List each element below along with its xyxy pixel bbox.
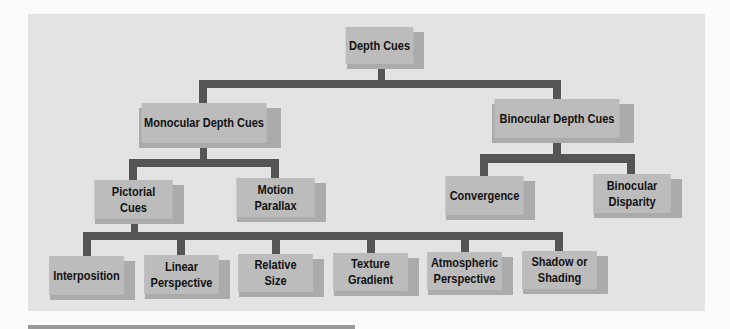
connector-pictorial-bar	[83, 232, 563, 240]
node-label: Binocular Disparity	[593, 174, 670, 213]
node-label: Texture Gradient	[333, 253, 408, 291]
connector-to-atmospheric-perspective	[461, 232, 469, 253]
connector-to-linear-perspective	[177, 232, 185, 256]
connector-binocular-to-disparity	[627, 154, 635, 175]
node-linear-perspective: Linear Perspective	[139, 255, 224, 294]
node-label: Monocular Depth Cues	[142, 103, 267, 143]
connector-binocular-bar	[480, 154, 635, 163]
node-label: Atmospheric Perspective	[427, 252, 502, 290]
connector-binocular-to-convergence	[480, 154, 488, 177]
node-label: Binocular Depth Cues	[495, 99, 620, 138]
node-interposition: Interposition	[44, 256, 129, 295]
footer-bar	[28, 325, 355, 329]
connector-to-relative-size	[272, 232, 280, 255]
connector-root-to-monocular	[199, 80, 207, 104]
connector-monocular-to-motion	[271, 159, 279, 179]
connector-root-to-binocular	[553, 80, 561, 100]
connector-to-shadow-or-shading	[555, 232, 563, 252]
connector-monocular-bar	[129, 159, 279, 167]
connector-root-bar	[199, 80, 561, 88]
node-label: Motion Parallax	[236, 178, 314, 217]
node-atmospheric-perspective: Atmospheric Perspective	[422, 252, 507, 290]
node-relative-size: Relative Size	[233, 254, 318, 292]
node-pictorial-cues: Pictorial Cues	[89, 180, 178, 219]
node-monocular-depth-cues: Monocular Depth Cues	[133, 103, 275, 143]
node-label: Depth Cues	[346, 27, 414, 64]
node-convergence: Convergence	[440, 176, 529, 215]
connector-to-interposition	[83, 232, 91, 257]
node-motion-parallax: Motion Parallax	[231, 178, 320, 217]
node-label: Pictorial Cues	[94, 180, 172, 219]
node-label: Linear Perspective	[144, 255, 219, 294]
node-label: Shadow or Shading	[522, 251, 597, 289]
node-label: Convergence	[445, 176, 523, 215]
node-label: Interposition	[49, 256, 124, 295]
node-shadow-or-shading: Shadow or Shading	[517, 251, 602, 289]
node-binocular-disparity: Binocular Disparity	[588, 174, 676, 213]
connector-to-texture-gradient	[367, 232, 375, 254]
node-label: Relative Size	[238, 254, 313, 292]
node-binocular-depth-cues: Binocular Depth Cues	[486, 99, 628, 138]
connector-monocular-to-pictorial	[129, 159, 137, 181]
node-depth-cues: Depth Cues	[341, 27, 418, 64]
node-texture-gradient: Texture Gradient	[328, 253, 413, 291]
